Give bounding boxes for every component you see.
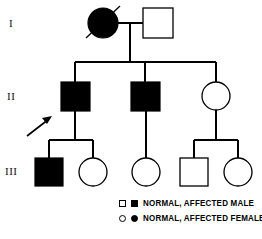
legend-male-label: NORMAL, AFFECTED MALE — [143, 198, 254, 208]
legend-normal-male-icon — [119, 200, 126, 207]
generation-label-ii: II — [7, 90, 15, 102]
generation-label-iii: III — [5, 165, 18, 177]
individual-II-3[interactable] — [202, 82, 230, 110]
proband-arrow-icon — [27, 116, 52, 136]
generation-label-i: I — [9, 17, 13, 29]
normal-male-symbol[interactable] — [180, 158, 208, 186]
individual-III-1[interactable] — [35, 158, 63, 186]
normal-female-symbol[interactable] — [224, 158, 252, 186]
legend-row-male: NORMAL, AFFECTED MALE — [119, 199, 254, 208]
individual-I-2[interactable] — [143, 8, 173, 38]
individual-II-2[interactable] — [131, 82, 160, 111]
legend-normal-female-icon — [119, 215, 126, 222]
affected-male-symbol[interactable] — [131, 82, 160, 111]
individual-III-2[interactable] — [79, 158, 107, 186]
individual-I-1[interactable] — [86, 6, 120, 38]
legend-affected-male-icon — [131, 200, 138, 207]
individual-II-1[interactable] — [61, 82, 90, 111]
affected-male-symbol[interactable] — [61, 82, 90, 111]
normal-female-symbol[interactable] — [202, 82, 230, 110]
pedigree-chart-figure: I II III NORMAL, AFFECTED MALE NORMAL, A… — [0, 0, 262, 239]
normal-female-symbol[interactable] — [79, 158, 107, 186]
normal-male-symbol[interactable] — [143, 8, 173, 38]
individual-III-3[interactable] — [132, 158, 160, 186]
legend-female-label: NORMAL, AFFECTED FEMALE — [143, 213, 262, 223]
individual-III-4[interactable] — [180, 158, 208, 186]
affected-male-symbol[interactable] — [35, 158, 63, 186]
individual-III-5[interactable] — [224, 158, 252, 186]
legend-affected-female-icon — [131, 215, 138, 222]
normal-female-symbol[interactable] — [132, 158, 160, 186]
legend-row-female: NORMAL, AFFECTED FEMALE — [119, 214, 262, 223]
